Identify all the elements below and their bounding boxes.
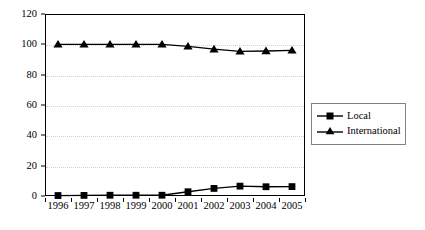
- data-point-square: [289, 183, 296, 190]
- x-tick-mark: [149, 198, 150, 202]
- chart-legend: Local International: [311, 103, 406, 145]
- x-tick-label: 2005: [282, 201, 303, 212]
- x-tick-mark: [97, 198, 98, 202]
- x-tick-mark: [279, 198, 280, 202]
- series-international: [53, 40, 296, 55]
- x-tick-label: 2001: [178, 201, 199, 212]
- legend-item-international[interactable]: International: [317, 124, 400, 138]
- data-point-square: [185, 188, 192, 195]
- legend-label-local: Local: [347, 111, 371, 122]
- x-tick-mark: [201, 198, 202, 202]
- legend-label-international: International: [347, 126, 401, 137]
- x-tick-label: 1997: [74, 201, 95, 212]
- y-axis: 020406080100120: [0, 0, 45, 210]
- y-tick-label: 20: [27, 160, 38, 171]
- y-tick-label: 40: [27, 130, 38, 141]
- x-tick-mark: [253, 198, 254, 202]
- x-tick-label: 1998: [100, 201, 121, 212]
- y-tick-label: 100: [21, 39, 37, 50]
- x-tick-label: 1996: [48, 201, 69, 212]
- data-point-square: [237, 183, 244, 190]
- x-tick-mark: [175, 198, 176, 202]
- series-line: [58, 186, 292, 195]
- x-tick-mark: [45, 198, 46, 202]
- data-point-square: [263, 183, 270, 190]
- triangle-marker-icon: [317, 125, 343, 137]
- x-tick-label: 2003: [230, 201, 251, 212]
- y-tick-label: 0: [32, 191, 37, 202]
- series-layer: [45, 14, 305, 196]
- y-tick-label: 120: [21, 9, 37, 20]
- x-tick-mark: [305, 198, 306, 202]
- y-tick-label: 80: [27, 69, 38, 80]
- legend-item-local[interactable]: Local: [317, 109, 400, 123]
- x-tick-label: 2000: [152, 201, 173, 212]
- line-chart: 020406080100120 199619971998199920002001…: [0, 0, 425, 230]
- data-point-square: [211, 185, 218, 192]
- x-tick-mark: [227, 198, 228, 202]
- x-tick-label: 2004: [256, 201, 277, 212]
- series-line: [58, 44, 292, 51]
- series-local: [55, 183, 296, 199]
- data-point-triangle: [287, 46, 296, 54]
- x-tick-mark: [123, 198, 124, 202]
- y-tick-label: 60: [27, 100, 38, 111]
- x-tick-label: 2002: [204, 201, 225, 212]
- x-tick-label: 1999: [126, 201, 147, 212]
- x-axis: 1996199719981999200020012002200320042005: [45, 198, 305, 222]
- x-tick-mark: [71, 198, 72, 202]
- square-marker-icon: [317, 110, 343, 122]
